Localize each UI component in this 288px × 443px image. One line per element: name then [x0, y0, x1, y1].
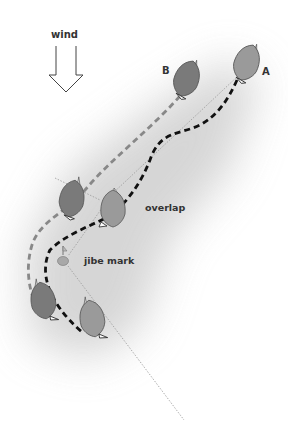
- jibe-mark-overlap-diagram: wind jibe mark overlap A B: [0, 0, 288, 443]
- wind-label: wind: [51, 29, 78, 40]
- boat-a-label: A: [262, 66, 270, 77]
- overlap-label: overlap: [145, 202, 186, 213]
- boat-b-label: B: [162, 65, 170, 76]
- jibe-mark-label: jibe mark: [83, 255, 135, 266]
